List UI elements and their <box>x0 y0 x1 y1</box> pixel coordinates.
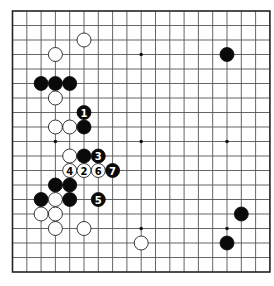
move-number: 1 <box>81 108 88 119</box>
black-stone-icon <box>63 178 77 192</box>
white-stone-icon <box>48 207 62 221</box>
white-stone-4: 4 <box>63 164 77 178</box>
white-stone-icon <box>77 33 91 47</box>
black-stone <box>63 77 77 91</box>
go-board: 1342675 <box>0 0 274 286</box>
star-point <box>225 227 229 231</box>
white-stone-icon <box>48 120 62 134</box>
white-stone-6: 6 <box>91 164 105 178</box>
move-number: 5 <box>95 195 102 206</box>
black-stone-icon <box>34 77 48 91</box>
white-stone-2: 2 <box>77 164 91 178</box>
white-stone-icon <box>63 120 77 134</box>
white-stone <box>48 207 62 221</box>
black-stone-icon <box>48 178 62 192</box>
white-stone-icon <box>48 48 62 62</box>
black-stone <box>34 193 48 207</box>
move-number: 7 <box>109 166 116 177</box>
black-stone-icon <box>63 193 77 207</box>
black-stone-icon <box>77 120 91 134</box>
star-point <box>139 53 143 57</box>
black-stone <box>220 48 234 62</box>
black-stone-icon <box>63 77 77 91</box>
black-stone <box>234 207 248 221</box>
black-stone <box>34 77 48 91</box>
star-point <box>139 227 143 231</box>
black-stone <box>48 178 62 192</box>
white-stone <box>34 207 48 221</box>
white-stone <box>48 193 62 207</box>
move-number: 6 <box>95 166 102 177</box>
star-point <box>139 140 143 144</box>
white-stone-icon <box>48 91 62 105</box>
black-stone <box>77 120 91 134</box>
white-stone-icon <box>34 207 48 221</box>
black-stone-3: 3 <box>91 149 105 163</box>
white-stone <box>48 120 62 134</box>
white-stone <box>48 222 62 236</box>
white-stone <box>134 236 148 250</box>
black-stone-1: 1 <box>77 106 91 120</box>
black-stone <box>48 77 62 91</box>
white-stone <box>77 222 91 236</box>
black-stone <box>220 236 234 250</box>
star-point <box>225 140 229 144</box>
white-stone <box>63 120 77 134</box>
black-stone-icon <box>77 149 91 163</box>
black-stone-icon <box>220 48 234 62</box>
black-stone-icon <box>234 207 248 221</box>
black-stone-icon <box>48 77 62 91</box>
white-stone-icon <box>77 222 91 236</box>
white-stone <box>48 91 62 105</box>
go-board-svg: 1342675 <box>0 0 274 286</box>
move-number: 2 <box>81 166 88 177</box>
black-stone-7: 7 <box>106 164 120 178</box>
move-number: 4 <box>66 166 73 177</box>
white-stone-icon <box>48 222 62 236</box>
white-stone-icon <box>134 236 148 250</box>
move-number: 3 <box>95 151 102 162</box>
black-stone-icon <box>34 193 48 207</box>
white-stone-icon <box>63 149 77 163</box>
star-point <box>54 140 58 144</box>
black-stone <box>77 149 91 163</box>
white-stone <box>63 149 77 163</box>
white-stone-icon <box>48 193 62 207</box>
white-stone <box>77 33 91 47</box>
black-stone-icon <box>220 236 234 250</box>
black-stone-5: 5 <box>91 193 105 207</box>
black-stone <box>63 178 77 192</box>
black-stone <box>63 193 77 207</box>
white-stone <box>48 48 62 62</box>
